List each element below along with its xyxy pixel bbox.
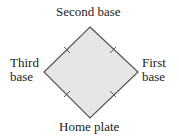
first-base-label-line1: First — [142, 56, 166, 70]
home-plate-label: Home plate — [59, 120, 119, 134]
first-base-label-line2: base — [142, 70, 166, 84]
diamond-square — [44, 27, 138, 118]
third-base-label-line2: base — [10, 70, 39, 84]
first-base-label: First base — [142, 56, 166, 84]
third-base-label: Third base — [10, 56, 39, 84]
third-base-label-line1: Third — [10, 56, 39, 70]
second-base-label: Second base — [56, 5, 121, 19]
